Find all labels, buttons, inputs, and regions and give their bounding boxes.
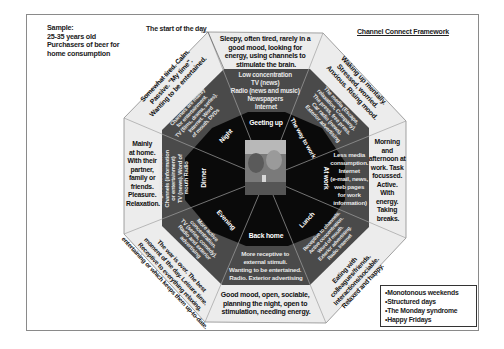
- legend-item: The Monday syndrome: [385, 306, 472, 315]
- moment-label-back-home: Back home: [249, 232, 284, 239]
- legend-item: Happy Fridays: [385, 315, 472, 324]
- moment-label-geeting-up: Geeting up: [249, 119, 283, 127]
- legend-item: Monotonous weekends: [385, 288, 472, 297]
- mood-dinner: Mainly at home. With their partner, fami…: [126, 140, 160, 207]
- moment-label-at-work: At work: [323, 167, 330, 190]
- legend-item: Structured days: [385, 297, 472, 306]
- moment-label-dinner: Dinner: [200, 168, 207, 188]
- mood-back-home: Good mood, open, sociable, planning the …: [221, 291, 311, 316]
- couple-photo: [245, 140, 286, 195]
- legend-box: Monotonous weekends Structured days The …: [380, 285, 477, 327]
